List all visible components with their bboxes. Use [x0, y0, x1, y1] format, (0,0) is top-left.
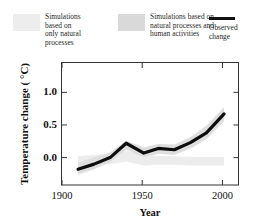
y-tick-label: 1.0 — [43, 85, 57, 97]
y-tick-label: 0.5 — [43, 118, 57, 130]
plot-area-container: 0.00.51.0 190019502000 Year Temperature … — [0, 0, 271, 223]
y-axis-title: Temperature change ( °C) — [18, 63, 31, 185]
y-axis-tick-labels: 0.00.51.0 — [43, 85, 57, 162]
y-tick-label: 0.0 — [43, 151, 57, 163]
line-chart-svg: 0.00.51.0 190019502000 Year Temperature … — [0, 0, 271, 223]
figure-root: Simulations based on only natural proces… — [0, 0, 271, 223]
x-tick-label: 1950 — [132, 190, 153, 201]
x-axis-tick-labels: 190019502000 — [52, 190, 233, 201]
x-tick-label: 1900 — [52, 190, 73, 201]
x-tick-label: 2000 — [212, 190, 233, 201]
x-axis-title: Year — [140, 207, 161, 218]
